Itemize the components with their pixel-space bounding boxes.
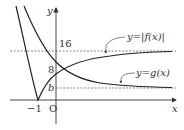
curve-abs-f: [16, 6, 172, 100]
origin-label: O: [49, 103, 57, 114]
tick-16: 16: [59, 38, 72, 49]
chart-figure: y x O 16 8 b −1 y=|f(x)| y=g(x): [0, 0, 184, 130]
y-axis-label: y: [46, 5, 53, 16]
curve-f-label: y=|f(x)|: [126, 31, 165, 43]
tick-neg1: −1: [27, 103, 42, 114]
x-axis-label: x: [172, 103, 178, 114]
leader-g: [121, 73, 135, 83]
tick-b: b: [48, 82, 54, 93]
leader-f: [106, 37, 125, 53]
curve-g-label: y=g(x): [135, 67, 170, 78]
tick-8: 8: [48, 64, 54, 75]
